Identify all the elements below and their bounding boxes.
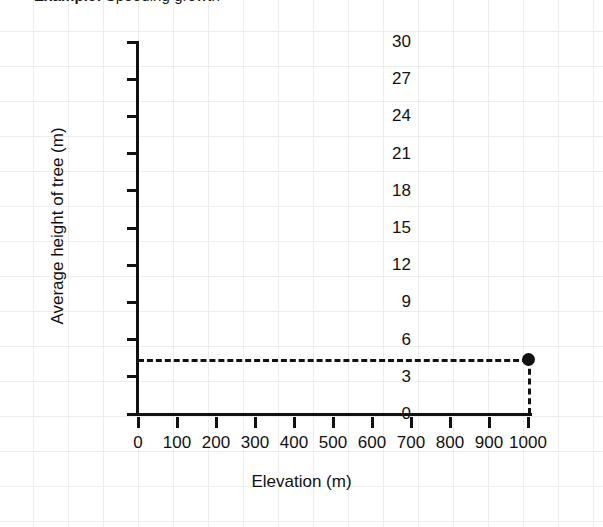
y-axis-tick bbox=[127, 78, 138, 81]
y-axis-tick bbox=[127, 338, 138, 341]
plot-area: 036912151821242730 010020030040050060070… bbox=[138, 42, 528, 414]
y-axis-tick-label: 24 bbox=[392, 107, 411, 124]
y-axis-tick-label: 18 bbox=[392, 182, 411, 199]
x-axis-tick bbox=[371, 417, 374, 428]
x-axis-tick bbox=[215, 417, 218, 428]
y-axis-tick-label: 6 bbox=[402, 331, 411, 348]
y-axis-tick-label: 30 bbox=[392, 33, 411, 50]
chart-canvas: Example: Speeding growth 036912151821242… bbox=[0, 0, 603, 527]
data-point-marker bbox=[522, 353, 535, 366]
x-axis-tick bbox=[527, 417, 530, 428]
x-axis-tick-label: 1000 bbox=[488, 434, 568, 451]
x-axis-tick bbox=[254, 417, 257, 428]
y-axis-tick-label: 9 bbox=[402, 293, 411, 310]
x-axis-tick bbox=[137, 417, 140, 428]
y-axis-tick bbox=[127, 301, 138, 304]
x-axis-tick bbox=[332, 417, 335, 428]
y-axis-title-label: Average height of tree (m) bbox=[48, 106, 68, 346]
y-axis-tick-label: 21 bbox=[392, 145, 411, 162]
y-axis-tick bbox=[127, 375, 138, 378]
x-axis-title: Elevation (m) bbox=[0, 472, 603, 492]
y-axis-title: Average height of tree (m) bbox=[48, 0, 68, 106]
y-axis-tick-label: 3 bbox=[402, 368, 411, 385]
y-axis-tick-label: 15 bbox=[392, 219, 411, 236]
y-axis-tick bbox=[127, 115, 138, 118]
vertical-guide-line bbox=[528, 359, 531, 414]
horizontal-guide-line bbox=[138, 359, 528, 362]
y-axis-tick bbox=[127, 152, 138, 155]
y-axis-tick bbox=[127, 264, 138, 267]
y-axis-tick bbox=[127, 189, 138, 192]
x-axis-tick bbox=[449, 417, 452, 428]
chart-title-rest: Speeding growth bbox=[102, 0, 220, 4]
y-axis-tick bbox=[127, 413, 138, 416]
y-axis-tick bbox=[127, 227, 138, 230]
y-axis-tick-label: 12 bbox=[392, 256, 411, 273]
y-axis-tick bbox=[127, 41, 138, 44]
x-axis-tick bbox=[293, 417, 296, 428]
x-axis-tick bbox=[176, 417, 179, 428]
x-axis-tick bbox=[488, 417, 491, 428]
x-axis-tick bbox=[410, 417, 413, 428]
y-axis-tick-label: 27 bbox=[392, 70, 411, 87]
